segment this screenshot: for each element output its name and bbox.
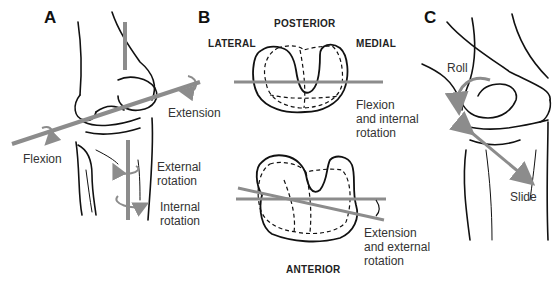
knee-kinematics-diagram: A Flexion Extension External rotation In…: [0, 0, 560, 282]
panel-b-label-flexion-internal-line3: rotation: [356, 126, 396, 140]
panel-b-label-extension-external-line3: rotation: [364, 254, 404, 268]
panel-a-letter: A: [44, 8, 56, 28]
panel-b-label-extension-external-line2: and external: [364, 240, 430, 254]
panel-b-label-lateral: LATERAL: [208, 38, 256, 49]
panel-a-knee-illustration: [75, 12, 157, 220]
panel-b-label-posterior: POSTERIOR: [274, 18, 336, 29]
panel-a-label-external-rotation-line1: External: [157, 160, 201, 174]
panel-b-label-flexion-internal-line1: Flexion: [356, 98, 395, 112]
panel-c-letter: C: [424, 8, 436, 28]
panel-c-label-roll: Roll: [447, 61, 468, 75]
panel-b-plateau-flexion: [253, 45, 347, 113]
panel-a-label-extension: Extension: [168, 106, 221, 120]
diagram-artwork: [0, 0, 560, 282]
panel-b-label-medial: MEDIAL: [356, 38, 396, 49]
panel-b-label-anterior: ANTERIOR: [286, 264, 341, 275]
panel-b-label-flexion-internal-line2: and internal: [356, 112, 419, 126]
panel-b-rotation-arrow: [376, 200, 379, 216]
panel-c-label-slide: Slide: [510, 190, 537, 204]
panel-a-motion-axes: [12, 22, 200, 220]
panel-a-label-external-rotation-line2: rotation: [157, 174, 197, 188]
panel-a-label-internal-rotation-line2: rotation: [160, 214, 200, 228]
panel-a-label-flexion: Flexion: [23, 152, 62, 166]
panel-a-label-internal-rotation-line1: Internal: [160, 200, 200, 214]
panel-b-letter: B: [198, 8, 210, 28]
panel-c-knee-illustration: [422, 14, 550, 240]
panel-b-label-extension-external-line1: Extension: [364, 226, 417, 240]
